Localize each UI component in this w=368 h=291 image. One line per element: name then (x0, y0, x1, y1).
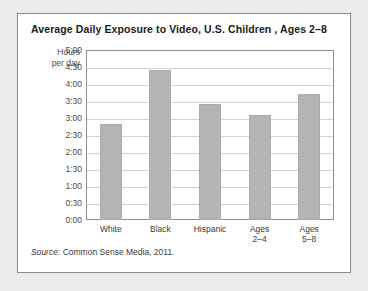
y-axis-tick-label: 5:00 (65, 45, 82, 55)
plot-wrapper: 5:004:304:003:303:002:302:001:301:000:30… (86, 50, 334, 220)
y-axis-tick-label: 2:00 (65, 147, 82, 157)
bar (199, 104, 221, 220)
chart-card: Average Daily Exposure to Video, U.S. Ch… (17, 13, 351, 273)
y-axis-tick-label: 2:30 (65, 130, 82, 140)
source-keyword: Source: (31, 247, 60, 257)
y-axis-tick-label: 0:30 (65, 198, 82, 208)
bar (149, 70, 171, 220)
y-axis-tick-label: 3:30 (65, 96, 82, 106)
gridline (87, 85, 333, 86)
x-axis-label: Black (150, 224, 171, 234)
chart-title: Average Daily Exposure to Video, U.S. Ch… (31, 23, 327, 35)
source-text: Common Sense Media, 2011. (60, 247, 174, 257)
y-axis-tick-label: 4:30 (65, 62, 82, 72)
y-axis-tick-label: 0:00 (65, 215, 82, 225)
gridline (87, 68, 333, 69)
x-axis-label: Hispanic (194, 224, 227, 234)
bar (298, 94, 320, 220)
y-axis-tick-label: 1:30 (65, 164, 82, 174)
source-note: Source: Common Sense Media, 2011. (31, 247, 174, 257)
bar (249, 115, 271, 220)
bar (100, 124, 122, 220)
x-axis-label: White (100, 224, 122, 234)
y-axis-tick-label: 3:00 (65, 113, 82, 123)
x-axis-label: Ages 5–8 (300, 224, 319, 244)
y-axis-tick-label: 1:00 (65, 181, 82, 191)
x-axis-label: Ages 2–4 (250, 224, 269, 244)
y-axis-tick-label: 4:00 (65, 79, 82, 89)
